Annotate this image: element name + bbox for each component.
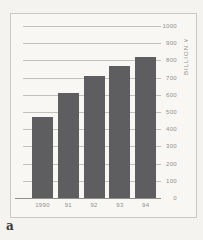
y-tick-label: 900 [155, 40, 177, 47]
figure-panel: 10009008007006005004003002001000 BILLION… [0, 0, 203, 240]
y-axis-title: BILLION ¥ [183, 19, 193, 75]
x-axis-label: 94 [133, 202, 159, 208]
bar-93 [109, 66, 130, 198]
y-tick-label: 800 [155, 57, 177, 64]
bar-92 [84, 76, 105, 198]
x-axis-label: 91 [55, 202, 81, 208]
bar-1990 [32, 117, 53, 198]
x-axis-baseline [15, 198, 161, 199]
chart-frame: 10009008007006005004003002001000 BILLION… [10, 13, 197, 218]
bar-94 [135, 57, 156, 198]
x-axis-label: 1990 [30, 202, 56, 208]
x-axis-label: 93 [107, 202, 133, 208]
y-tick-label: 400 [155, 126, 177, 133]
y-tick-label: 600 [155, 92, 177, 99]
plot-area [23, 26, 161, 198]
x-axis-label: 92 [81, 202, 107, 208]
y-tick-label: 300 [155, 143, 177, 150]
figure-label: a [6, 219, 14, 233]
gridline [23, 26, 161, 27]
y-tick-label: 500 [155, 109, 177, 116]
y-tick-label: 100 [155, 178, 177, 185]
y-tick-label: 0 [155, 195, 177, 202]
bar-91 [58, 93, 79, 198]
gridline [23, 43, 161, 44]
y-tick-label: 700 [155, 75, 177, 82]
y-tick-label: 1000 [155, 23, 177, 30]
y-tick-label: 200 [155, 161, 177, 168]
